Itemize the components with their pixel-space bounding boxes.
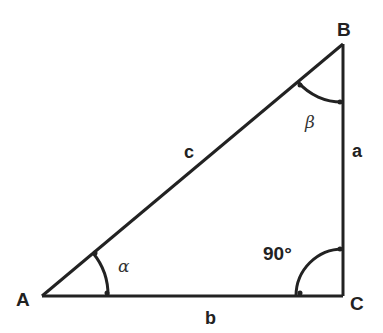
angle-label-right: 90° xyxy=(263,243,292,264)
side-label-a: a xyxy=(352,141,363,161)
angle-beta-tick xyxy=(338,100,343,105)
angle-label-beta: β xyxy=(304,112,315,132)
angle-alpha-tick xyxy=(93,251,98,256)
vertex-label-b: B xyxy=(337,19,351,40)
right-angle-tick xyxy=(338,247,343,252)
angle-beta-arc xyxy=(298,82,343,102)
angle-label-alpha: α xyxy=(118,256,130,276)
right-triangle-diagram: A B C a b c α β 90° xyxy=(0,0,383,333)
vertex-label-a: A xyxy=(16,289,30,310)
right-angle-tick xyxy=(298,291,303,296)
side-label-b: b xyxy=(205,308,216,328)
angle-beta-tick xyxy=(298,83,303,88)
side-c-line xyxy=(42,44,343,296)
angle-alpha-tick xyxy=(105,291,110,296)
vertex-label-c: C xyxy=(350,293,364,314)
right-angle-arc xyxy=(296,249,343,296)
angle-alpha-arc xyxy=(93,253,108,296)
side-label-c: c xyxy=(184,142,194,162)
